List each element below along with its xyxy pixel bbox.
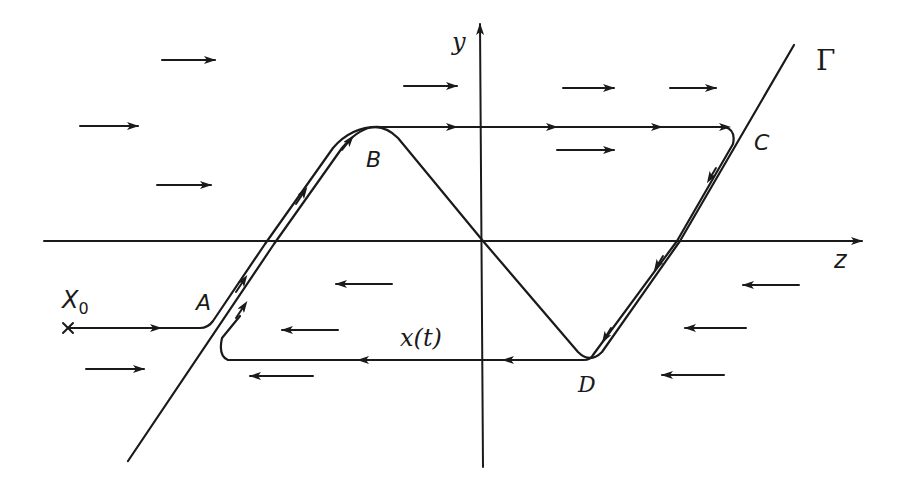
trajectory-label: x(t) <box>400 324 442 352</box>
z-axis-label: z <box>833 246 848 274</box>
gamma-curve-path <box>128 45 794 461</box>
point-c-label: C <box>754 130 770 155</box>
start-point-label: X0 <box>60 286 89 318</box>
y-axis-label: y <box>451 28 466 56</box>
phase-plane-diagram: y z Γ X0 x(t) A B C <box>0 0 907 486</box>
y-axis <box>480 24 483 467</box>
axes: y z <box>44 24 862 467</box>
point-a-label: A <box>194 290 211 315</box>
point-d-label: D <box>577 372 596 397</box>
gamma-label: Γ <box>816 44 835 77</box>
trajectory: X0 x(t) <box>60 127 734 360</box>
point-b-label: B <box>366 147 381 172</box>
